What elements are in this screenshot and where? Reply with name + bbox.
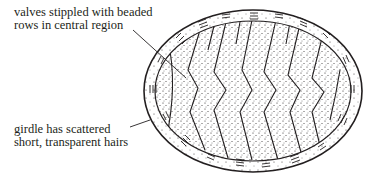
girdle-leader-line	[130, 120, 150, 127]
chiton-illustration	[0, 0, 373, 182]
